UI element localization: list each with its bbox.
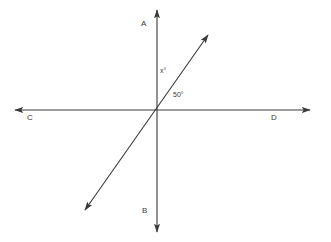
geometry-figure: A B C D x° 50° bbox=[0, 0, 331, 242]
point-label-c: C bbox=[27, 114, 33, 122]
point-label-a: A bbox=[141, 20, 146, 28]
point-label-d: D bbox=[271, 114, 277, 122]
figure-drawing-area bbox=[0, 0, 331, 242]
diagonal-ray bbox=[85, 35, 208, 210]
point-label-b: B bbox=[142, 207, 147, 215]
angle-label-50: 50° bbox=[173, 91, 184, 98]
angle-label-x: x° bbox=[160, 67, 166, 74]
